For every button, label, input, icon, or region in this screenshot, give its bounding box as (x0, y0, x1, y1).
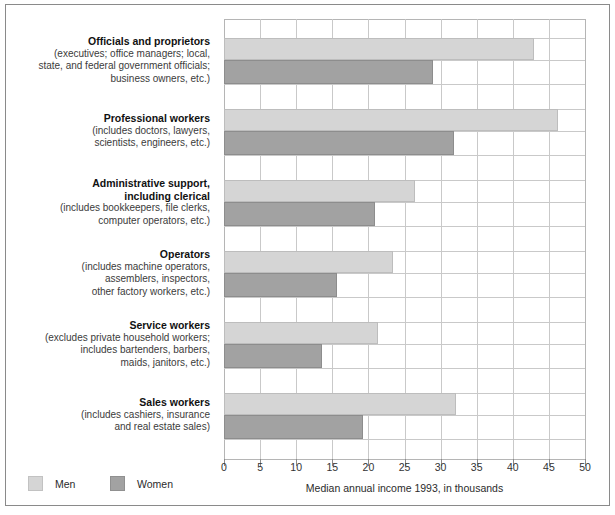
x-axis-title: Median annual income 1993, in thousands (224, 482, 585, 494)
category-label-4: Operators(includes machine operators,ass… (12, 248, 218, 298)
category-description-line: (includes machine operators, (12, 261, 210, 273)
legend-label-women: Women (137, 478, 173, 490)
chart-figure: Officials and proprietors(executives; of… (0, 0, 615, 515)
tick-label: 0 (204, 461, 244, 473)
category-description-line: computer operators, etc.) (12, 215, 210, 227)
category-description-line: maids, janitors, etc.) (12, 357, 210, 369)
bar-women (224, 60, 433, 84)
bar-men (224, 38, 534, 60)
tick-label: 45 (529, 461, 569, 473)
category-labels-column: Officials and proprietors(executives; of… (6, 5, 218, 507)
category-description-line: (includes doctors, lawyers, (12, 125, 210, 137)
bar-women (224, 202, 375, 226)
bar-women (224, 131, 454, 155)
tick-label: 15 (312, 461, 352, 473)
bar-women (224, 344, 322, 368)
category-description-line: (includes bookkeepers, file clerks, (12, 202, 210, 214)
category-description-line: and real estate sales) (12, 421, 210, 433)
category-title: Professional workers (12, 112, 210, 125)
category-label-6: Sales workers(includes cashiers, insuran… (12, 396, 218, 433)
chart-frame: Officials and proprietors(executives; of… (5, 4, 610, 506)
category-title: Officials and proprietors (12, 35, 210, 48)
group-separator-line (224, 84, 585, 85)
bar-women (224, 415, 363, 439)
plot-area (224, 19, 585, 459)
category-description-line: (excludes private household workers; (12, 332, 210, 344)
category-title: Operators (12, 248, 210, 261)
category-label-5: Service workers(excludes private househo… (12, 319, 218, 369)
legend-swatch-men-icon (28, 476, 43, 491)
tick-label: 50 (565, 461, 605, 473)
tick-label: 30 (421, 461, 461, 473)
category-description-line: state, and federal government officials; (12, 60, 210, 72)
category-description-line: (executives; office managers; local, (12, 48, 210, 60)
tick-label: 10 (276, 461, 316, 473)
group-separator-line (224, 368, 585, 369)
group-separator-line (224, 155, 585, 156)
legend-label-men: Men (55, 478, 75, 490)
legend-swatch-women-icon (110, 476, 125, 491)
category-title: Sales workers (12, 396, 210, 409)
category-description-line: assemblers, inspectors, (12, 273, 210, 285)
category-label-2: Professional workers(includes doctors, l… (12, 112, 218, 149)
category-title: Service workers (12, 319, 210, 332)
axis-line-right (585, 19, 586, 459)
legend-item-women: Women (110, 476, 173, 491)
bar-men (224, 251, 393, 273)
bar-men (224, 180, 415, 202)
category-label-3: Administrative support,including clerica… (12, 177, 218, 227)
bar-women (224, 273, 337, 297)
tick-label: 35 (457, 461, 497, 473)
category-description-line: scientists, engineers, etc.) (12, 137, 210, 149)
tick-label: 20 (348, 461, 388, 473)
category-description-line: business owners, etc.) (12, 73, 210, 85)
tick-label: 40 (493, 461, 533, 473)
bar-men (224, 322, 378, 344)
group-separator-line (224, 439, 585, 440)
category-description-line: other factory workers, etc.) (12, 286, 210, 298)
category-description-line: (includes cashiers, insurance (12, 409, 210, 421)
group-separator-line (224, 226, 585, 227)
tick-label: 5 (240, 461, 280, 473)
tick-label: 25 (385, 461, 425, 473)
category-description-line: includes bartenders, barbers, (12, 344, 210, 356)
bar-men (224, 109, 558, 131)
legend-item-men: Men (28, 476, 75, 491)
category-title: Administrative support, (12, 177, 210, 190)
category-title: including clerical (12, 190, 210, 203)
group-separator-line (224, 297, 585, 298)
bar-men (224, 393, 456, 415)
category-label-1: Officials and proprietors(executives; of… (12, 35, 218, 85)
